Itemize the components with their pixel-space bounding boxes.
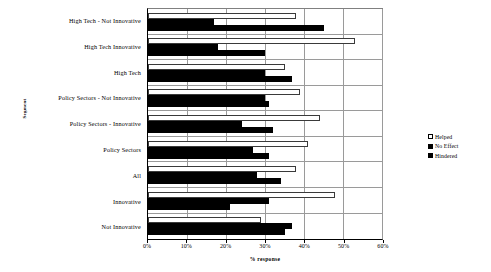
bar-group <box>148 111 382 137</box>
bar-hindered <box>148 153 269 159</box>
group-separator <box>148 213 382 214</box>
bar-row <box>148 127 382 133</box>
legend-label: Helped <box>435 134 452 140</box>
bar-hindered <box>148 76 292 82</box>
legend-entry[interactable]: No Effect <box>428 142 486 151</box>
category-label: High Tech <box>28 60 144 86</box>
bar-hindered <box>148 178 281 184</box>
bar-group <box>148 86 382 112</box>
x-axis-tick-labels: 0%10%20%30%40%50%60% <box>147 243 383 253</box>
category-label: Policy Sectors <box>28 137 144 163</box>
bar-group <box>148 137 382 163</box>
legend-swatch-icon <box>428 144 433 149</box>
bar-group <box>148 162 382 188</box>
bar-row <box>148 76 382 82</box>
bar-group <box>148 35 382 61</box>
bar-hindered <box>148 204 230 210</box>
bar-row <box>148 229 382 235</box>
bar-hindered <box>148 50 265 56</box>
bar-row <box>148 178 382 184</box>
legend-swatch-icon <box>428 134 433 139</box>
category-label: Not Innovative <box>28 214 144 240</box>
category-label: High Tech Innovative <box>28 34 144 60</box>
plot-area <box>147 8 383 240</box>
x-axis-title: % response <box>147 256 383 262</box>
x-tick-label: 20% <box>220 243 231 249</box>
category-label: Policy Sectors - Not Innovative <box>28 85 144 111</box>
bar-hindered <box>148 127 273 133</box>
bar-row <box>148 204 382 210</box>
y-axis-title: Segment <box>22 79 27 139</box>
category-label: Policy Sectors - Innovative <box>28 111 144 137</box>
legend-entry[interactable]: Helped <box>428 132 486 141</box>
x-tick-label: 50% <box>338 243 349 249</box>
x-tick-label: 40% <box>299 243 310 249</box>
bar-group <box>148 9 382 35</box>
legend-label: No Effect <box>435 143 459 149</box>
category-label: Innovative <box>28 188 144 214</box>
chart-legend: HelpedNo EffectHindered <box>428 132 486 161</box>
bars-layer <box>148 9 382 239</box>
bar-hindered <box>148 229 285 235</box>
bar-hindered <box>148 101 269 107</box>
horizontal-bar-chart: Segment High Tech - Not InnovativeHigh T… <box>0 0 491 272</box>
legend-entry[interactable]: Hindered <box>428 151 486 160</box>
bar-row <box>148 153 382 159</box>
legend-swatch-icon <box>428 153 433 158</box>
category-label: All <box>28 163 144 189</box>
legend-label: Hindered <box>435 153 457 159</box>
bar-hindered <box>148 25 324 31</box>
bar-group <box>148 214 382 240</box>
category-label: High Tech - Not Innovative <box>28 8 144 34</box>
category-axis: High Tech - Not InnovativeHigh Tech Inno… <box>28 8 144 240</box>
x-tick-label: 30% <box>259 243 270 249</box>
x-tick-label: 60% <box>377 243 388 249</box>
gridline <box>382 9 383 239</box>
x-tick-label: 0% <box>143 243 151 249</box>
bar-row <box>148 50 382 56</box>
bar-group <box>148 60 382 86</box>
bar-row <box>148 25 382 31</box>
bar-row <box>148 101 382 107</box>
bar-group <box>148 188 382 214</box>
x-tick-label: 10% <box>181 243 192 249</box>
